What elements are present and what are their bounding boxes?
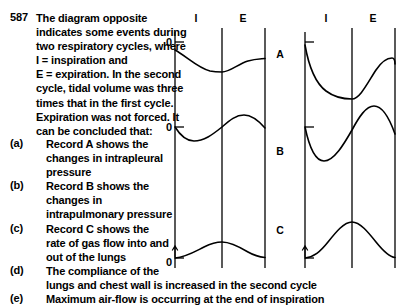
record-label-c: C	[276, 224, 284, 236]
option-marker: (a)	[10, 137, 36, 149]
panel2-expiration-label: E	[369, 12, 376, 24]
arrow-panel2	[302, 246, 308, 257]
panel1-expiration-label: E	[239, 12, 246, 24]
record-label-b: B	[276, 145, 284, 157]
panel2-traces	[305, 45, 395, 258]
option-line: Maximum air-flow is occurring at the end…	[46, 292, 405, 306]
option-marker: (c)	[10, 222, 36, 234]
panel1-traces	[175, 50, 265, 258]
trace-c-cycle1	[175, 242, 265, 258]
panel2-inspiration-label: I	[325, 12, 328, 24]
panel1-gridlines	[175, 28, 265, 268]
option-marker: (d)	[10, 264, 36, 276]
record-label-a: A	[276, 48, 284, 60]
diagram-svg: I E I E 0 0 0 A B C	[160, 0, 405, 280]
trace-a-cycle2	[305, 45, 395, 99]
trace-b-cycle1	[175, 115, 265, 141]
option-marker: (b)	[10, 179, 36, 191]
zero-label-record-b: 0	[166, 121, 172, 133]
trace-c-cycle2	[305, 222, 395, 258]
respiratory-cycle-diagram: I E I E 0 0 0 A B C	[160, 0, 405, 280]
zero-ticks	[175, 42, 314, 258]
option-marker: (e)	[10, 292, 36, 304]
zero-label-record-c: 0	[166, 256, 172, 268]
option-e[interactable]: (e) Maximum air-flow is occurring at the…	[10, 292, 405, 306]
arrow-panel1	[172, 246, 178, 257]
question-number: 587	[10, 11, 28, 23]
trace-a-cycle1	[175, 50, 265, 72]
trace-b-cycle2	[305, 106, 395, 161]
panel1-inspiration-label: I	[195, 12, 198, 24]
zero-label-record-a: 0	[166, 36, 172, 48]
option-line: lungs and chest wall is increased in the…	[46, 278, 405, 292]
option-text: Maximum air-flow is occurring at the end…	[10, 292, 405, 306]
